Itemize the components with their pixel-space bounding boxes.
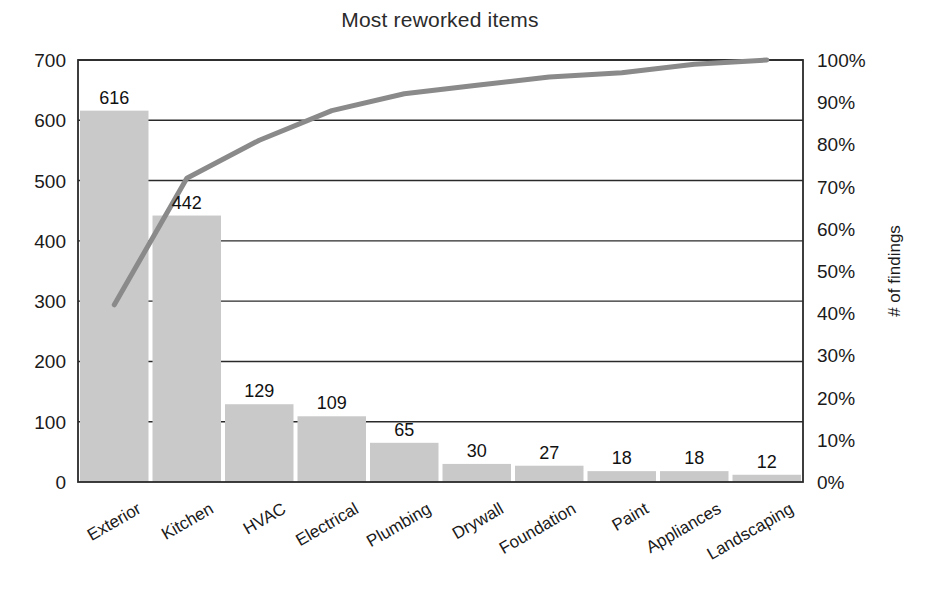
category-label: HVAC — [240, 499, 289, 538]
left-axis-tick-label: 200 — [34, 351, 66, 372]
bar-value-label: 129 — [244, 381, 274, 401]
left-axis-tick-label: 0 — [55, 472, 66, 493]
bars-group — [80, 111, 801, 482]
bar — [515, 466, 584, 482]
right-axis-tick-label: 40% — [817, 303, 855, 324]
bar-value-label: 27 — [539, 443, 559, 463]
bar-value-label: 30 — [467, 441, 487, 461]
right-axis-title: # of findings — [885, 225, 904, 317]
right-axis-tick-label: 90% — [817, 92, 855, 113]
right-axis-tick-label: 0% — [817, 472, 845, 493]
bar — [733, 475, 802, 482]
category-label: Exterior — [84, 499, 145, 545]
right-axis-ticks-group: 0%10%20%30%40%50%60%70%80%90%100% — [817, 50, 866, 493]
bar-value-label: 109 — [317, 393, 347, 413]
left-axis-tick-label: 600 — [34, 110, 66, 131]
bar — [588, 471, 657, 482]
right-axis-tick-label: 30% — [817, 345, 855, 366]
right-axis-tick-label: 10% — [817, 430, 855, 451]
bar — [443, 464, 512, 482]
bar — [225, 404, 294, 482]
right-axis-tick-label: 100% — [817, 50, 866, 71]
category-label: Plumbing — [363, 499, 434, 551]
bar — [660, 471, 729, 482]
bar — [298, 416, 367, 482]
left-axis-ticks-group: 0100200300400500600700 — [34, 50, 66, 493]
category-label: Foundation — [496, 499, 579, 558]
left-axis-tick-label: 400 — [34, 231, 66, 252]
right-axis-tick-label: 20% — [817, 388, 855, 409]
category-label: Drywall — [449, 499, 507, 543]
left-axis-tick-label: 300 — [34, 291, 66, 312]
bar-value-label: 18 — [684, 448, 704, 468]
bar-value-label: 442 — [172, 193, 202, 213]
bar — [370, 443, 439, 482]
bar — [80, 111, 149, 482]
right-axis-tick-label: 60% — [817, 219, 855, 240]
right-axis-title-group: # of findings — [885, 225, 904, 317]
bar — [153, 216, 222, 482]
bar-value-label: 65 — [394, 420, 414, 440]
left-axis-tick-label: 700 — [34, 50, 66, 71]
bar-value-label: 12 — [757, 452, 777, 472]
right-axis-tick-label: 80% — [817, 134, 855, 155]
left-axis-tick-label: 100 — [34, 412, 66, 433]
category-label: Paint — [609, 499, 652, 535]
right-axis-tick-label: 70% — [817, 177, 855, 198]
bar-value-label: 616 — [99, 88, 129, 108]
left-axis-tick-label: 500 — [34, 171, 66, 192]
chart-canvas: 616442129109653027181812 010020030040050… — [0, 0, 942, 595]
bar-value-label: 18 — [612, 448, 632, 468]
category-label: Electrical — [293, 499, 362, 550]
category-labels-group: ExteriorKitchenHVACElectricalPlumbingDry… — [84, 499, 797, 564]
right-axis-tick-label: 50% — [817, 261, 855, 282]
pareto-chart: Most reworked items 61644212910965302718… — [0, 0, 942, 595]
category-label: Kitchen — [158, 499, 217, 544]
